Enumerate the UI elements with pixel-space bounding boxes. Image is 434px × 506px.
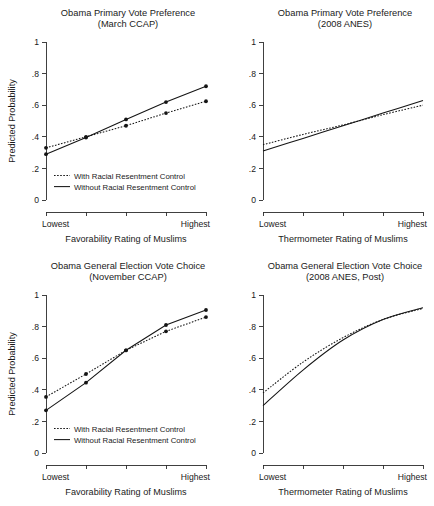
data-point-marker <box>164 329 168 333</box>
y-tick-label: 1 <box>34 290 39 300</box>
y-tick-label: .4 <box>32 385 39 395</box>
panel-subtitle: (November CCAP) <box>89 272 167 282</box>
y-tick-label: .6 <box>249 353 256 363</box>
series-line-with-control <box>263 105 423 145</box>
y-tick-label: 1 <box>251 37 256 47</box>
x-tick-label-lowest: Lowest <box>42 219 70 229</box>
panel-top-right: Obama Primary Vote Preference(2008 ANES)… <box>217 0 434 253</box>
panel-subtitle: (March CCAP) <box>98 19 158 29</box>
x-tick-label-highest: Highest <box>181 472 211 482</box>
y-tick-label: .2 <box>249 164 256 174</box>
x-tick-label-highest: Highest <box>398 219 428 229</box>
series-line-without-control <box>46 310 206 410</box>
y-tick-label: .8 <box>32 322 39 332</box>
panel-bottom-right: Obama General Election Vote Choice(2008 … <box>217 253 434 506</box>
x-tick-label-highest: Highest <box>181 219 211 229</box>
y-tick-label: .6 <box>32 353 39 363</box>
panel-title: Obama General Election Vote Choice <box>268 261 423 271</box>
data-point-marker <box>204 99 208 103</box>
x-axis-title: Thermometer Rating of Muslims <box>278 234 408 244</box>
y-axis-title: Predicted Probability <box>7 79 17 163</box>
panel-title: Obama General Election Vote Choice <box>51 261 206 271</box>
data-point-marker <box>124 124 128 128</box>
y-tick-label: 0 <box>251 195 256 205</box>
series-line-with-control <box>46 317 206 397</box>
data-point-marker <box>44 395 48 399</box>
data-point-marker <box>204 315 208 319</box>
data-point-marker <box>164 100 168 104</box>
y-tick-label: 1 <box>34 37 39 47</box>
y-tick-label: .4 <box>32 132 39 142</box>
legend-label-without-control: Without Racial Resentment Control <box>74 183 196 192</box>
data-point-marker <box>84 372 88 376</box>
x-axis-title: Favorability Rating of Muslims <box>65 234 187 244</box>
y-tick-label: 0 <box>251 448 256 458</box>
y-tick-label: 0 <box>34 448 39 458</box>
series-line-without-control <box>263 100 423 151</box>
y-tick-label: .2 <box>249 417 256 427</box>
y-tick-label: .6 <box>249 100 256 110</box>
x-tick-label-lowest: Lowest <box>259 472 287 482</box>
panel-title: Obama Primary Vote Preference <box>61 8 195 18</box>
figure-grid: Obama Primary Vote Preference(March CCAP… <box>0 0 434 506</box>
y-tick-label: .8 <box>32 69 39 79</box>
y-tick-label: .8 <box>249 322 256 332</box>
y-axis-title: Predicted Probability <box>7 332 17 416</box>
y-tick-label: .2 <box>32 417 39 427</box>
y-tick-label: 0 <box>34 195 39 205</box>
x-axis-title: Thermometer Rating of Muslims <box>278 487 408 497</box>
panel-title: Obama Primary Vote Preference <box>278 8 412 18</box>
data-point-marker <box>164 111 168 115</box>
data-point-marker <box>204 84 208 88</box>
data-point-marker <box>44 152 48 156</box>
panel-subtitle: (2008 ANES) <box>318 19 372 29</box>
x-tick-label-highest: Highest <box>398 472 428 482</box>
data-point-marker <box>204 308 208 312</box>
y-tick-label: .2 <box>32 164 39 174</box>
legend-label-with-control: With Racial Resentment Control <box>74 425 185 434</box>
series-line-without-control <box>263 308 423 406</box>
x-axis-title: Favorability Rating of Muslims <box>65 487 187 497</box>
data-point-marker <box>84 136 88 140</box>
legend-label-without-control: Without Racial Resentment Control <box>74 436 196 445</box>
x-tick-label-lowest: Lowest <box>259 219 287 229</box>
data-point-marker <box>44 146 48 150</box>
legend-label-with-control: With Racial Resentment Control <box>74 172 185 181</box>
x-tick-label-lowest: Lowest <box>42 472 70 482</box>
data-point-marker <box>44 408 48 412</box>
y-tick-label: .6 <box>32 100 39 110</box>
y-tick-label: .8 <box>249 69 256 79</box>
data-point-marker <box>124 118 128 122</box>
data-point-marker <box>124 348 128 352</box>
panel-bottom-left: Obama General Election Vote Choice(Novem… <box>0 253 217 506</box>
y-tick-label: .4 <box>249 385 256 395</box>
series-line-with-control <box>263 308 423 393</box>
y-tick-label: .4 <box>249 132 256 142</box>
panel-subtitle: (2008 ANES, Post) <box>306 272 384 282</box>
data-point-marker <box>84 381 88 385</box>
panel-top-left: Obama Primary Vote Preference(March CCAP… <box>0 0 217 253</box>
y-tick-label: 1 <box>251 290 256 300</box>
data-point-marker <box>164 323 168 327</box>
